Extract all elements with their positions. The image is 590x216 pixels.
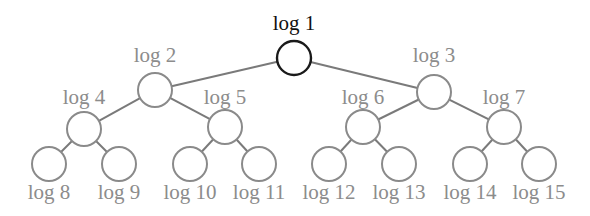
node-label-log-4: log 4 xyxy=(63,85,106,109)
node-label-log-8: log 8 xyxy=(28,180,71,204)
node-log-8 xyxy=(32,147,66,181)
node-label-log-12: log 12 xyxy=(302,180,355,204)
edge-log-7-to-log-15 xyxy=(516,139,528,151)
edge-log-6-to-log-13 xyxy=(375,139,387,152)
node-label-log-14: log 14 xyxy=(443,180,497,204)
node-log-1 xyxy=(277,41,311,75)
edge-log-6-to-log-12 xyxy=(341,140,352,152)
node-log-7 xyxy=(487,110,521,144)
node-log-10 xyxy=(173,147,207,181)
edge-log-7-to-log-14 xyxy=(482,140,493,152)
node-label-log-6: log 6 xyxy=(342,85,385,109)
node-label-log-15: log 15 xyxy=(512,180,565,204)
node-label-log-7: log 7 xyxy=(483,85,526,109)
node-log-15 xyxy=(522,147,556,181)
edge-log-5-to-log-11 xyxy=(237,140,248,152)
node-label-log-9: log 9 xyxy=(98,180,141,204)
node-log-9 xyxy=(102,147,136,181)
node-label-log-13: log 13 xyxy=(372,180,425,204)
node-log-13 xyxy=(382,147,416,181)
edge-log-4-to-log-8 xyxy=(61,141,72,152)
node-log-12 xyxy=(312,147,346,181)
tree-nodes xyxy=(32,41,556,181)
log-tree-diagram: log 1log 2log 3log 4log 5log 6log 7log 8… xyxy=(0,0,590,216)
node-label-log-5: log 5 xyxy=(204,85,247,109)
node-log-4 xyxy=(67,112,101,146)
edge-log-1-to-log-2 xyxy=(172,62,278,86)
node-log-6 xyxy=(346,110,380,144)
node-label-log-11: log 11 xyxy=(233,180,285,204)
node-label-log-3: log 3 xyxy=(413,43,456,67)
edge-log-4-to-log-9 xyxy=(96,141,107,152)
node-label-log-10: log 10 xyxy=(163,180,216,204)
node-label-log-1: log 1 xyxy=(273,11,316,35)
node-label-log-2: log 2 xyxy=(134,43,177,67)
node-log-14 xyxy=(453,147,487,181)
node-log-2 xyxy=(138,73,172,107)
node-log-5 xyxy=(208,110,242,144)
edge-log-5-to-log-10 xyxy=(202,139,214,151)
node-log-11 xyxy=(242,147,276,181)
node-log-3 xyxy=(417,75,451,109)
